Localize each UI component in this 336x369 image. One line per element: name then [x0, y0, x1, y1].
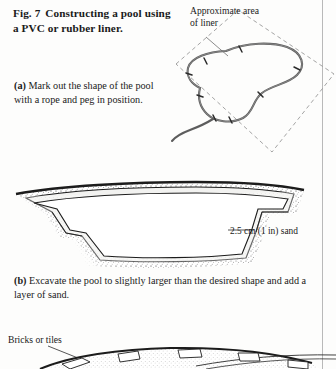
peg-icon — [239, 46, 242, 52]
panel-b-illustration — [0, 0, 336, 369]
caption-b-text: Excavate the pool to slightly larger tha… — [14, 275, 306, 300]
sand-label: 2.5 cm (1 in) sand — [230, 226, 298, 238]
panel-c-illustration — [0, 0, 336, 369]
liner-leader-line — [206, 37, 228, 56]
peg-group — [186, 46, 300, 123]
peg-icon — [204, 58, 207, 64]
brick-tile — [288, 360, 308, 369]
peg-icon — [229, 117, 232, 123]
peg-icon — [294, 67, 300, 70]
excavation-profile — [26, 187, 294, 262]
rope-tail — [172, 119, 213, 141]
column-divider-rule — [322, 0, 323, 369]
bricks-leader-line — [48, 346, 88, 362]
caption-b: (b) Excavate the pool to slightly larger… — [14, 274, 314, 301]
peg-icon — [258, 92, 263, 97]
liner-edge-line-2 — [206, 359, 336, 369]
brick-tile — [118, 351, 140, 362]
brick-tile — [238, 353, 260, 361]
figure-title: Fig. 7Constructing a pool using a PVC or… — [13, 6, 178, 36]
soil-mass — [16, 182, 304, 268]
liner-edge-line — [196, 355, 336, 366]
figure-title-line1: Constructing a pool — [45, 7, 141, 19]
figure-number: Fig. 7 — [13, 7, 40, 19]
rope-loop — [188, 44, 302, 122]
ground-surface-line — [16, 182, 304, 194]
edging-surface-line — [40, 348, 312, 369]
figure-page: Fig. 7Constructing a pool using a PVC or… — [0, 0, 336, 369]
brick-tile — [62, 358, 90, 369]
liner-area-outline — [176, 10, 334, 152]
caption-a-text: Mark out the shape of the pool with a ro… — [14, 80, 154, 105]
liner-area-label: Approximate area of liner — [190, 5, 262, 28]
brick-group — [62, 349, 308, 369]
peg-icon — [213, 115, 216, 121]
caption-b-marker: (b) — [14, 275, 26, 286]
caption-a: (a) Mark out the shape of the pool with … — [14, 79, 174, 106]
caption-a-marker: (a) — [14, 80, 26, 91]
panel-a-illustration — [0, 0, 336, 369]
brick-tile — [178, 349, 202, 358]
peg-icon — [186, 73, 192, 75]
edging-soil-bank — [40, 348, 320, 369]
bricks-or-tiles-label: Bricks or tiles — [8, 334, 62, 346]
peg-icon — [197, 95, 203, 97]
rope-loop-highlight — [188, 44, 302, 122]
